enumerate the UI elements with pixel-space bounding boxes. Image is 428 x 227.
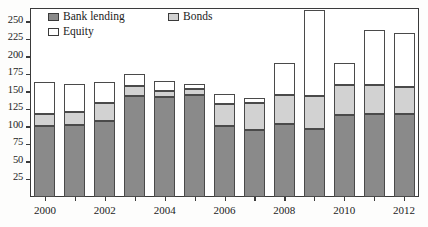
bar-segment-equity[interactable]	[364, 30, 385, 85]
x-axis-tick-mark	[284, 197, 285, 201]
bar-group[interactable]	[214, 94, 235, 197]
x-axis-tick-mark	[254, 197, 255, 201]
bar-segment-bank-lending[interactable]	[64, 125, 85, 197]
legend-label-bank-lending: Bank lending	[63, 11, 125, 23]
x-axis-tick-mark	[374, 197, 375, 201]
bar-group[interactable]	[364, 30, 385, 197]
y-axis-tick-label: 225	[8, 32, 23, 43]
chart-legend: Bank lending Bonds Equity	[48, 11, 278, 41]
bar-segment-bonds[interactable]	[34, 114, 55, 126]
bar-segment-bonds[interactable]	[274, 95, 295, 124]
x-axis-tick-label: 2008	[273, 205, 295, 216]
bar-segment-equity[interactable]	[94, 82, 115, 104]
bar-group[interactable]	[34, 82, 55, 198]
legend-label-bonds: Bonds	[183, 11, 212, 23]
bar-segment-bank-lending[interactable]	[214, 126, 235, 197]
bar-segment-bonds[interactable]	[394, 87, 415, 114]
x-axis-tick-mark	[195, 197, 196, 201]
y-axis-tick-label: 50	[13, 155, 23, 166]
x-axis-tick-label: 2010	[333, 205, 355, 216]
legend-row-2: Equity	[48, 26, 278, 41]
y-axis-tick-label: 200	[8, 50, 23, 61]
x-axis-tick-mark	[135, 197, 136, 201]
x-axis-tick-mark	[45, 197, 46, 201]
y-axis-tick-label: 75	[13, 137, 23, 148]
legend-entry-bank-lending: Bank lending	[48, 11, 125, 23]
bar-segment-bonds[interactable]	[124, 86, 145, 95]
bar-segment-equity[interactable]	[244, 98, 265, 104]
x-axis-tick-label: 2006	[214, 205, 236, 216]
x-axis-tick-mark	[105, 197, 106, 201]
bar-segment-bank-lending[interactable]	[274, 124, 295, 197]
y-axis-tick-label: 125	[8, 102, 23, 113]
bar-group[interactable]	[94, 82, 115, 198]
x-axis-tick-label: 2002	[94, 205, 116, 216]
bar-segment-equity[interactable]	[124, 74, 145, 87]
x-axis-tick-mark	[314, 197, 315, 201]
y-axis-tick-label: 100	[8, 120, 23, 131]
bar-segment-bonds[interactable]	[214, 104, 235, 126]
bar-group[interactable]	[184, 84, 205, 197]
bar-segment-equity[interactable]	[34, 82, 55, 115]
stacked-bar-chart: 255075100125150175200225250 200020022004…	[0, 0, 428, 227]
x-axis-tick-mark	[165, 197, 166, 201]
bar-group[interactable]	[334, 63, 355, 197]
bar-segment-bonds[interactable]	[244, 103, 265, 130]
bar-segment-equity[interactable]	[214, 94, 235, 104]
x-axis: 2000200220042006200820102012	[30, 197, 419, 227]
x-axis-tick-mark	[225, 197, 226, 201]
bar-group[interactable]	[244, 98, 265, 197]
bar-group[interactable]	[154, 81, 175, 197]
bar-segment-bank-lending[interactable]	[334, 115, 355, 197]
bar-segment-bonds[interactable]	[184, 89, 205, 95]
bar-segment-bank-lending[interactable]	[364, 114, 385, 197]
y-axis-tick-label: 250	[8, 15, 23, 26]
bar-group[interactable]	[394, 33, 415, 197]
bar-segment-bonds[interactable]	[304, 96, 325, 130]
bar-segment-bonds[interactable]	[94, 103, 115, 121]
bar-segment-bonds[interactable]	[334, 85, 355, 115]
x-axis-tick-mark	[75, 197, 76, 201]
y-axis-tick-label: 25	[13, 172, 23, 183]
bar-segment-bank-lending[interactable]	[394, 114, 415, 197]
legend-swatch-bonds	[168, 13, 179, 21]
bar-group[interactable]	[124, 74, 145, 197]
bar-segment-equity[interactable]	[334, 63, 355, 85]
legend-swatch-equity	[48, 28, 59, 36]
bar-segment-bonds[interactable]	[364, 85, 385, 114]
legend-entry-equity: Equity	[48, 26, 94, 38]
y-axis-tick-label: 175	[8, 67, 23, 78]
legend-swatch-bank-lending	[48, 13, 59, 21]
bar-group[interactable]	[64, 84, 85, 197]
bar-segment-bank-lending[interactable]	[184, 95, 205, 197]
bar-segment-equity[interactable]	[184, 84, 205, 90]
bar-segment-bonds[interactable]	[154, 91, 175, 97]
bar-segment-bank-lending[interactable]	[94, 121, 115, 197]
bar-segment-equity[interactable]	[274, 63, 295, 95]
bar-segment-bank-lending[interactable]	[244, 130, 265, 197]
x-axis-tick-mark	[344, 197, 345, 201]
y-axis: 255075100125150175200225250	[0, 8, 30, 197]
x-axis-tick-mark	[404, 197, 405, 201]
x-axis-tick-label: 2012	[393, 205, 415, 216]
legend-row-1: Bank lending Bonds	[48, 11, 278, 26]
x-axis-tick-label: 2004	[154, 205, 176, 216]
bar-segment-bank-lending[interactable]	[304, 129, 325, 197]
x-axis-tick-label: 2000	[34, 205, 56, 216]
legend-entry-bonds: Bonds	[168, 11, 212, 23]
bar-group[interactable]	[304, 10, 325, 197]
bar-segment-bank-lending[interactable]	[154, 97, 175, 197]
bar-group[interactable]	[274, 63, 295, 197]
bar-segment-bank-lending[interactable]	[124, 96, 145, 198]
bar-segment-bank-lending[interactable]	[34, 126, 55, 197]
bar-segment-equity[interactable]	[154, 81, 175, 91]
bar-segment-equity[interactable]	[394, 33, 415, 87]
legend-label-equity: Equity	[63, 26, 94, 38]
bar-segment-bonds[interactable]	[64, 112, 85, 125]
bar-segment-equity[interactable]	[304, 10, 325, 95]
bar-segment-equity[interactable]	[64, 84, 85, 111]
y-axis-tick-label: 150	[8, 85, 23, 96]
